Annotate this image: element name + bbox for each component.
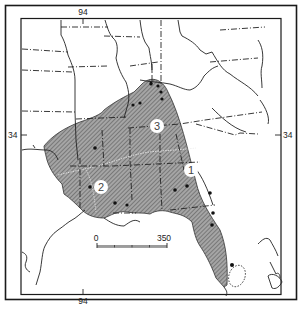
latitude-label-right: 34 [283,130,293,140]
range-map: 3 1 2 94 94 34 34 0 [0,0,305,309]
scale-end-label: 350 [157,233,171,243]
zone-3-label: 3 [154,120,160,132]
zone-1-label: 1 [188,164,194,176]
longitude-label-bottom: 94 [78,296,88,306]
longitude-label-top: 94 [78,7,88,17]
latitude-label-left: 34 [8,130,18,140]
zone-2-label: 2 [98,181,104,193]
scale-start-label: 0 [94,233,99,243]
